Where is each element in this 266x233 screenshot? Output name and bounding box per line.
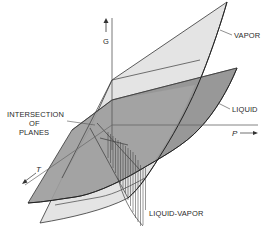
intersection-label-line3: PLANES	[19, 128, 49, 137]
liquid-label: LIQUID	[232, 105, 258, 114]
intersection-label-line1: INTERSECTION	[7, 110, 64, 119]
p-axis-label: P	[232, 129, 238, 138]
t-axis-label: T	[36, 165, 42, 174]
g-axis-label: G	[103, 37, 109, 46]
gibbs-surface-diagram: G P T VAPOR LIQUID INTERSECTION OF PLANE…	[0, 0, 266, 233]
vapor-label: VAPOR	[234, 31, 261, 40]
g-axis-arrow-icon	[104, 18, 109, 32]
liquid-vapor-label: LIQUID-VAPOR	[149, 209, 204, 218]
vapor-leader	[220, 30, 232, 35]
liquid-leader	[218, 103, 230, 109]
intersection-label-line2: OF	[29, 119, 40, 128]
p-axis-arrow-icon	[240, 131, 258, 135]
